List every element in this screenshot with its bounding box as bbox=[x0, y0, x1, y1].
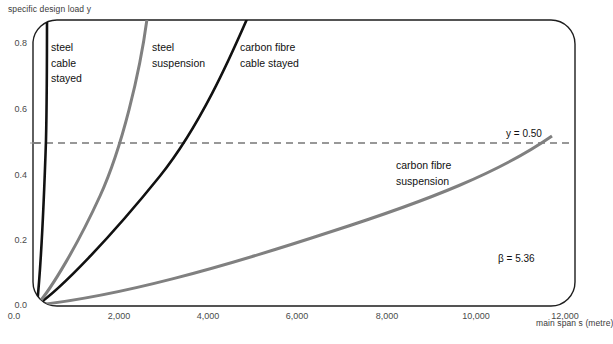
series-label-line-3: stayed bbox=[51, 71, 82, 87]
series-label-carbon-fibre-suspension: carbon fibre suspension bbox=[396, 158, 451, 189]
series-label-line-1: carbon fibre bbox=[240, 40, 299, 56]
series-label-line-1: steel bbox=[152, 40, 205, 56]
x-tick-label-0: 0.0 bbox=[0, 311, 37, 321]
x-tick-label-1: 2,000 bbox=[96, 311, 142, 321]
x-tick-label-6: 12,000 bbox=[542, 311, 588, 321]
series-label-line-1: carbon fibre bbox=[396, 158, 451, 174]
x-tick-label-5: 10,000 bbox=[453, 311, 499, 321]
series-label-line-2: cable stayed bbox=[240, 56, 299, 72]
beta-annotation: β = 5.36 bbox=[498, 253, 535, 264]
series-label-steel-suspension: steel suspension bbox=[152, 40, 205, 71]
y-tick-label-3: 0.6 bbox=[5, 104, 27, 114]
y-tick-label-2: 0.4 bbox=[5, 170, 27, 180]
y-axis-title: specific design load y bbox=[8, 4, 91, 14]
y-tick-label-4: 0.8 bbox=[5, 38, 27, 48]
series-label-carbon-fibre-cable-stayed: carbon fibre cable stayed bbox=[240, 40, 299, 71]
threshold-annotation: y = 0.50 bbox=[506, 128, 542, 139]
series-label-line-2: suspension bbox=[396, 174, 451, 190]
series-label-line-2: cable bbox=[51, 56, 82, 72]
x-tick-label-4: 8,000 bbox=[364, 311, 410, 321]
series-steel-cable-stayed bbox=[37, 19, 47, 305]
x-tick-label-2: 4,000 bbox=[185, 311, 231, 321]
y-tick-label-0: 0.0 bbox=[5, 300, 27, 310]
series-label-line-2: suspension bbox=[152, 56, 205, 72]
y-tick-label-1: 0.2 bbox=[5, 235, 27, 245]
series-label-steel-cable-stayed: steel cable stayed bbox=[51, 40, 82, 87]
series-label-line-1: steel bbox=[51, 40, 82, 56]
x-tick-label-3: 6,000 bbox=[274, 311, 320, 321]
